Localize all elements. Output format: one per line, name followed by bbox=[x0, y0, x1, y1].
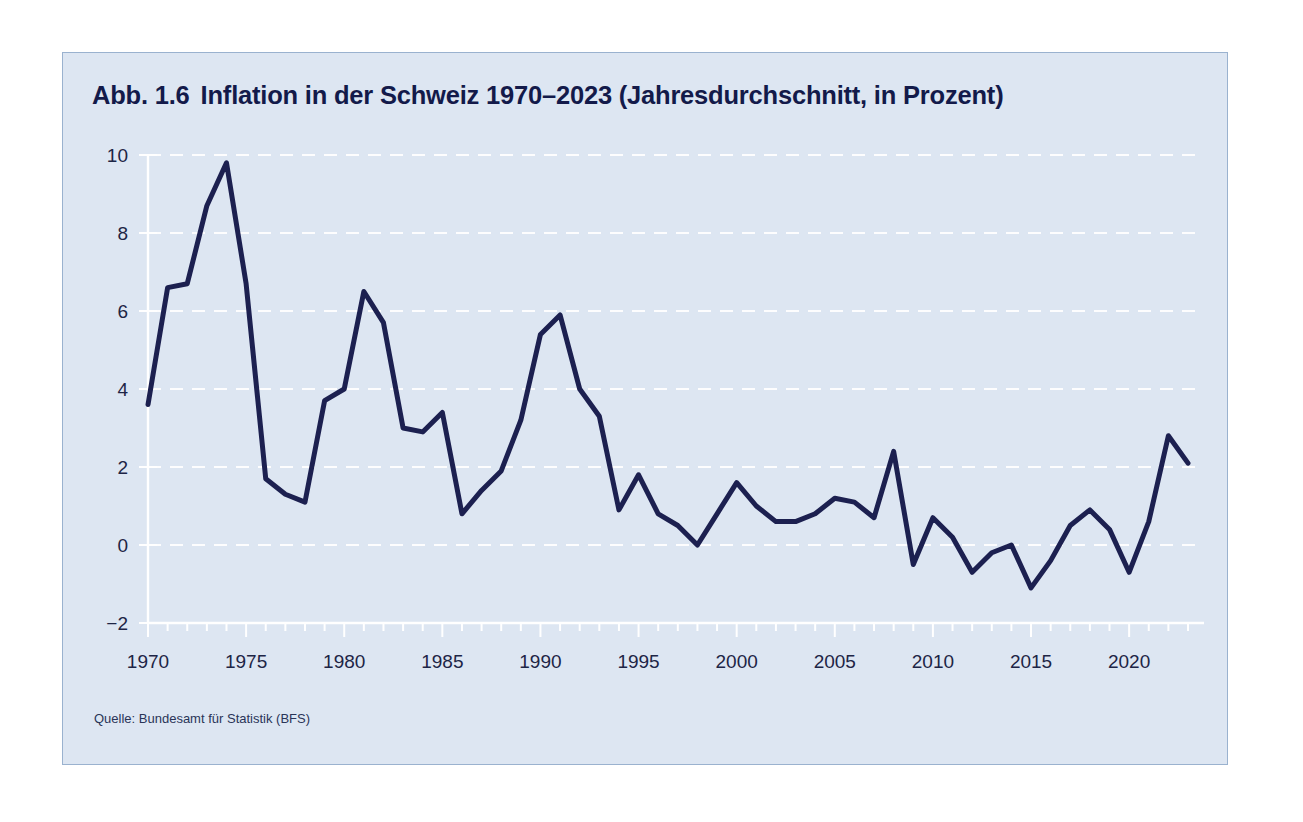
x-tick-label-2010: 2010 bbox=[912, 651, 954, 672]
x-tick-label-2020: 2020 bbox=[1108, 651, 1150, 672]
x-tick-label-1970: 1970 bbox=[127, 651, 169, 672]
x-tick-label-1985: 1985 bbox=[421, 651, 463, 672]
figure-panel: Abb. 1.6Inflation in der Schweiz 1970–20… bbox=[62, 52, 1228, 765]
x-axis-tick-labels: 1970197519801985199019952000200520102015… bbox=[127, 651, 1150, 672]
y-tick-label-2: 2 bbox=[117, 457, 128, 478]
chart-svg: −20246810 197019751980198519901995200020… bbox=[63, 53, 1229, 766]
data-series-line-0 bbox=[148, 163, 1188, 588]
x-axis-tick-marks bbox=[139, 155, 1188, 637]
x-tick-label-2015: 2015 bbox=[1010, 651, 1052, 672]
y-tick-label-8: 8 bbox=[117, 223, 128, 244]
x-tick-label-1995: 1995 bbox=[617, 651, 659, 672]
data-series-group bbox=[148, 163, 1188, 588]
y-tick-label-0: 0 bbox=[117, 535, 128, 556]
x-tick-label-1980: 1980 bbox=[323, 651, 365, 672]
y-axis-tick-labels: −20246810 bbox=[106, 145, 128, 634]
x-tick-label-1975: 1975 bbox=[225, 651, 267, 672]
x-tick-label-2005: 2005 bbox=[814, 651, 856, 672]
y-tick-label-6: 6 bbox=[117, 301, 128, 322]
x-tick-label-2000: 2000 bbox=[716, 651, 758, 672]
x-tick-label-1990: 1990 bbox=[519, 651, 561, 672]
inflation-line-chart: −20246810 197019751980198519901995200020… bbox=[63, 53, 1229, 766]
y-tick-label-10: 10 bbox=[107, 145, 128, 166]
source-note: Quelle: Bundesamt für Statistik (BFS) bbox=[94, 711, 310, 726]
y-tick-label--2: −2 bbox=[106, 613, 128, 634]
y-tick-label-4: 4 bbox=[117, 379, 128, 400]
